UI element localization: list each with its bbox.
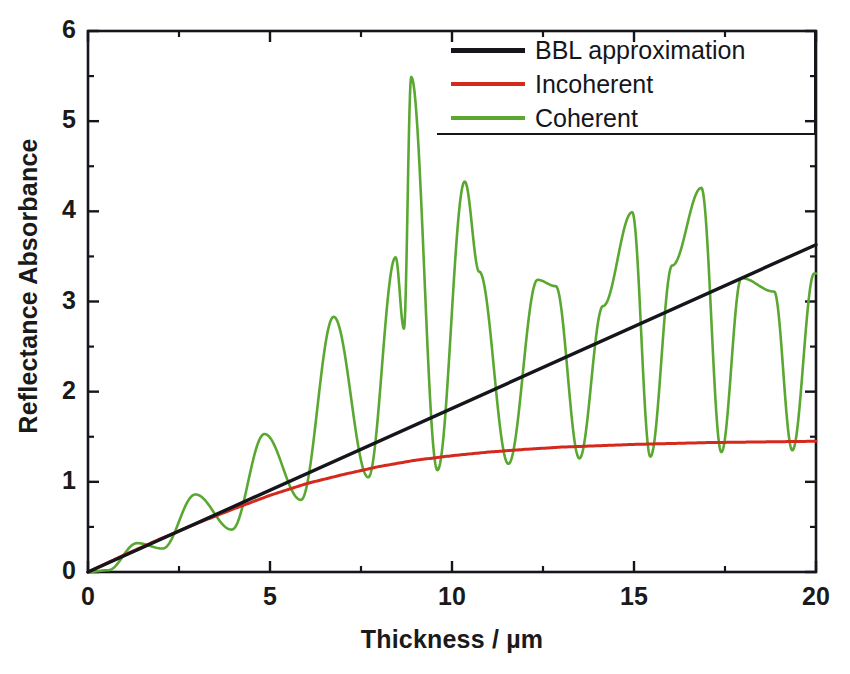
- legend-label-incoherent: Incoherent: [535, 72, 653, 97]
- legend-label-bbl: BBL approximation: [535, 38, 745, 63]
- legend-item-bbl: BBL approximation: [451, 33, 745, 67]
- y-tick-label: 1: [30, 466, 76, 495]
- legend-label-coherent: Coherent: [535, 106, 638, 131]
- x-tick-label: 0: [58, 582, 118, 611]
- y-tick-label: 5: [30, 105, 76, 134]
- series-line-incoherent: [88, 441, 816, 572]
- chart-figure: Reflectance Absorbance Thickness / µm 05…: [0, 0, 850, 674]
- chart-legend: BBL approximation Incoherent Coherent: [437, 31, 816, 135]
- series-line-coherent: [88, 77, 816, 572]
- x-tick-label: 5: [240, 582, 300, 611]
- y-tick-label: 6: [30, 15, 76, 44]
- legend-item-incoherent: Incoherent: [451, 67, 653, 101]
- legend-item-coherent: Coherent: [451, 101, 638, 135]
- legend-swatch-incoherent: [451, 82, 525, 86]
- x-tick-label: 10: [422, 582, 482, 611]
- x-tick-label: 20: [786, 582, 846, 611]
- legend-swatch-coherent: [451, 116, 525, 120]
- legend-swatch-bbl: [451, 48, 525, 53]
- data-series: [88, 77, 816, 572]
- y-tick-label: 0: [30, 556, 76, 585]
- x-tick-label: 15: [604, 582, 664, 611]
- y-tick-label: 2: [30, 376, 76, 405]
- y-tick-label: 3: [30, 286, 76, 315]
- y-tick-label: 4: [30, 195, 76, 224]
